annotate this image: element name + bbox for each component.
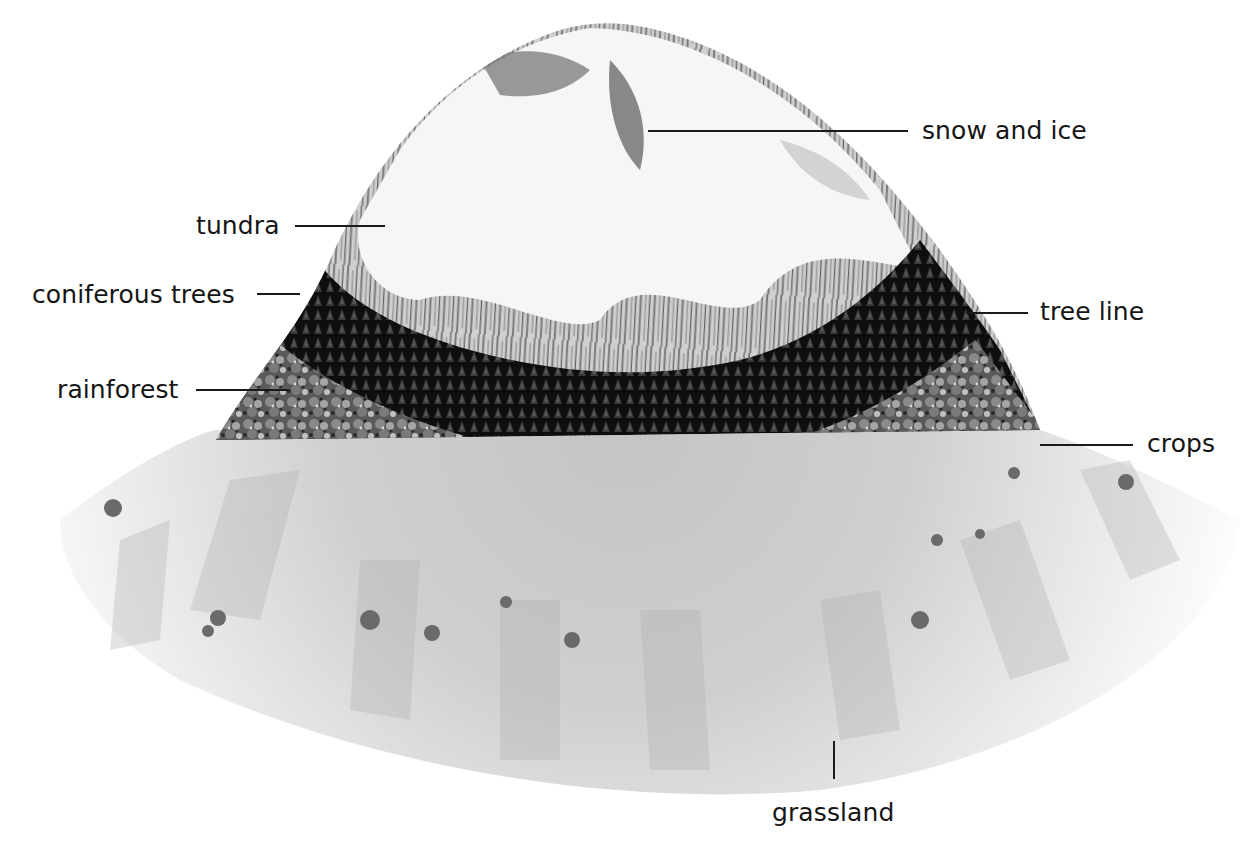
label-grassland: grassland (772, 800, 894, 825)
label-crops: crops (1147, 431, 1215, 456)
label-snow-and-ice: snow and ice (922, 118, 1087, 143)
grassland-zone (60, 430, 1240, 794)
label-tree-line: tree line (1040, 299, 1144, 324)
label-coniferous-trees: coniferous trees (32, 282, 235, 307)
label-rainforest: rainforest (57, 377, 178, 402)
label-tundra: tundra (196, 213, 280, 238)
